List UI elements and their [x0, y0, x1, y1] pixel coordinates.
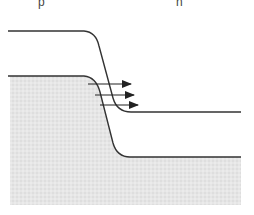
p-region-label: p [38, 0, 45, 8]
pn-junction-diagram: p n [0, 0, 254, 215]
band-diagram-svg [0, 0, 254, 215]
n-region-label: n [176, 0, 183, 8]
